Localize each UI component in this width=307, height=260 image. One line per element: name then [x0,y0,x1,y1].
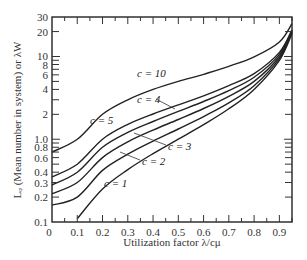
label-c1: c = 1 [104,177,127,189]
curve-c2 [52,33,292,206]
y-tick-label: 0.2 [34,191,48,203]
y-tick-label: 20 [37,26,49,38]
y-tick-label: 0.6 [34,152,48,164]
y-tick-label: 2 [43,108,49,120]
y-tick-label: 6 [43,69,49,81]
curve-c5 [52,30,292,177]
x-axis-title: Utilization factor λ/cμ [123,236,220,248]
y-tick-label: 0.1 [34,216,48,228]
y-tick-label: 0.3 [34,177,48,189]
y-axis-title: Lᵩ (Mean number in system) or λW [11,41,24,198]
x-tick-label: 0.7 [222,226,236,238]
x-tick-label: 0.8 [247,226,261,238]
label-c2: c = 2 [142,155,166,167]
x-tick-label: 0.9 [272,226,286,238]
y-tick-label: 4 [43,83,49,95]
label-c5: c = 5 [90,114,114,126]
plot-frame [52,17,292,222]
label-c10: c = 10 [137,67,166,79]
label-c3: c = 3 [168,140,192,152]
tick-labels: 00.10.20.30.40.50.60.70.80.930201086421.… [34,11,286,238]
curve-labels: c = 10 c = 4 c = 5 c = 3 c = 2 c = 1 [90,67,192,189]
axis-ticks [52,17,292,222]
y-tick-label: 30 [37,11,49,23]
x-tick-label: 0.1 [70,226,84,238]
label-c4: c = 4 [137,93,161,105]
x-tick-label: 0.2 [96,226,110,238]
curves [52,24,292,219]
chart-canvas: 00.10.20.30.40.50.60.70.80.930201086421.… [0,0,307,260]
